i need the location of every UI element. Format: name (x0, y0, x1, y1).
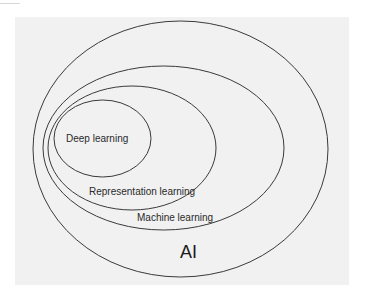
representation-learning-label: Representation learning (89, 187, 195, 197)
ai-label: AI (180, 243, 197, 261)
machine-learning-label: Machine learning (137, 213, 213, 223)
deep-learning-label: Deep learning (66, 134, 128, 144)
